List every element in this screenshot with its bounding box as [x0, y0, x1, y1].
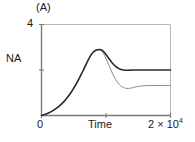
data-curves — [42, 50, 171, 116]
axis-ticks — [39, 25, 171, 119]
plot-area — [0, 0, 195, 142]
curve-lower — [42, 50, 171, 116]
figure-panel-a: (A) NA 4 0 Time 2 × 104 — [0, 0, 195, 142]
